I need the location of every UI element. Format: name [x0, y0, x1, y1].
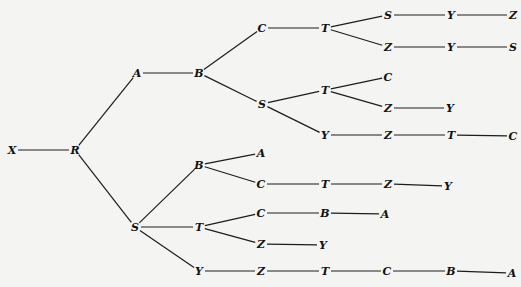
tree-edge — [205, 167, 256, 182]
node-label: C — [257, 207, 266, 220]
tree-node: T — [447, 129, 456, 142]
tree-node: Z — [383, 102, 393, 115]
node-label: T — [321, 22, 330, 35]
tree-node: A — [380, 208, 390, 221]
tree-node: Y — [321, 129, 330, 142]
tree-edge — [79, 155, 132, 223]
node-label: A — [132, 67, 142, 80]
tree-node: T — [321, 22, 330, 35]
tree-edge — [205, 154, 255, 164]
node-label: Z — [383, 41, 393, 54]
tree-node: Z — [383, 41, 393, 54]
tree-edge — [457, 135, 507, 136]
tree-node: C — [383, 265, 392, 278]
tree-node: Y — [447, 41, 456, 54]
node-label: A — [256, 147, 266, 160]
tree-edge — [205, 229, 255, 243]
node-label: B — [445, 265, 455, 278]
tree-node: Z — [383, 178, 393, 191]
node-label: S — [258, 98, 266, 111]
node-label: A — [507, 267, 517, 280]
tree-edge — [267, 244, 317, 245]
node-label: C — [384, 71, 393, 84]
node-label: C — [257, 178, 266, 191]
tree-node: S — [131, 221, 139, 234]
tree-edge — [268, 91, 319, 102]
tree-edge — [331, 213, 379, 214]
node-label: Y — [321, 129, 330, 142]
node-label: X — [7, 144, 17, 157]
tree-node: T — [321, 178, 330, 191]
tree-edge — [204, 76, 256, 102]
tree-node: T — [321, 84, 330, 97]
node-label: T — [447, 129, 456, 142]
tree-node: A — [132, 67, 142, 80]
node-label: Z — [256, 265, 266, 278]
node-label: S — [384, 9, 392, 22]
node-label: Z — [508, 9, 518, 22]
tree-node: B — [445, 265, 455, 278]
node-label: B — [193, 67, 203, 80]
node-label: Z — [383, 102, 393, 115]
node-label: Y — [447, 41, 456, 54]
tree-node: S — [384, 9, 392, 22]
tree-edge — [204, 31, 257, 69]
tree-edge — [140, 230, 194, 267]
tree-edges — [18, 15, 507, 273]
tree-node: Y — [195, 265, 204, 278]
node-label: Y — [444, 180, 453, 193]
node-label: T — [195, 221, 204, 234]
tree-nodes: XRABCTSYZZYSSTCZYYZTCSBACTZYTCBAZYYZTCBA — [7, 9, 518, 280]
node-label: S — [131, 221, 139, 234]
node-label: C — [509, 130, 518, 143]
node-label: Z — [256, 238, 266, 251]
node-label: Y — [446, 102, 455, 115]
tree-node: T — [321, 265, 330, 278]
tree-diagram: XRABCTSYZZYSSTCZYYZTCSBACTZYTCBAZYYZTCBA — [0, 0, 521, 287]
tree-node: C — [257, 207, 266, 220]
tree-node: S — [258, 98, 266, 111]
tree-node: B — [193, 159, 203, 172]
tree-node: A — [256, 147, 266, 160]
node-label: Z — [383, 129, 393, 142]
tree-node: C — [258, 22, 267, 35]
node-label: R — [69, 144, 79, 157]
tree-edge — [139, 169, 194, 223]
tree-node: A — [507, 267, 517, 280]
node-label: T — [321, 178, 330, 191]
tree-node: Z — [508, 9, 518, 22]
node-label: C — [383, 265, 392, 278]
tree-edge — [331, 30, 383, 46]
node-label: Z — [383, 178, 393, 191]
tree-node: R — [69, 144, 79, 157]
tree-node: Y — [446, 102, 455, 115]
node-label: T — [321, 265, 330, 278]
tree-node: X — [7, 144, 17, 157]
tree-node: S — [509, 41, 517, 54]
node-label: C — [258, 22, 267, 35]
tree-node: Y — [319, 239, 328, 252]
tree-edge — [267, 107, 319, 133]
tree-edge — [331, 16, 382, 27]
node-label: S — [509, 41, 517, 54]
tree-node: T — [195, 221, 204, 234]
tree-node: Y — [444, 180, 453, 193]
tree-node: Z — [256, 265, 266, 278]
tree-edge — [331, 78, 382, 89]
tree-node: Y — [447, 9, 456, 22]
tree-edge — [205, 214, 255, 225]
tree-node: C — [509, 130, 518, 143]
node-label: B — [193, 159, 203, 172]
tree-node: C — [384, 71, 393, 84]
node-label: Y — [195, 265, 204, 278]
tree-edge — [331, 92, 382, 107]
node-label: Y — [447, 9, 456, 22]
tree-node: B — [193, 67, 203, 80]
tree-edge — [457, 271, 506, 273]
node-label: Y — [319, 239, 328, 252]
node-label: A — [380, 208, 390, 221]
node-label: B — [319, 207, 329, 220]
tree-node: Z — [383, 129, 393, 142]
tree-node: C — [257, 178, 266, 191]
tree-edge — [394, 184, 442, 186]
